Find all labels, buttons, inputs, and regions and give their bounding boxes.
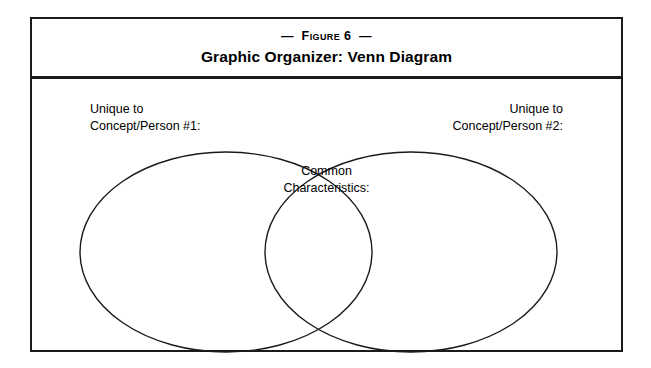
figure-frame: — Figure 6 — Graphic Organizer: Venn Dia…	[30, 17, 623, 352]
figure-subtitle: Graphic Organizer: Venn Diagram	[32, 44, 621, 66]
overlap-region-label: Common Characteristics:	[247, 163, 407, 196]
figure-title-block: — Figure 6 — Graphic Organizer: Venn Dia…	[32, 19, 621, 76]
venn-circles-graphic	[32, 79, 621, 354]
figure-number-label: — Figure 6 —	[32, 19, 621, 44]
venn-diagram-area: Unique to Concept/Person #1: Unique to C…	[32, 79, 621, 354]
